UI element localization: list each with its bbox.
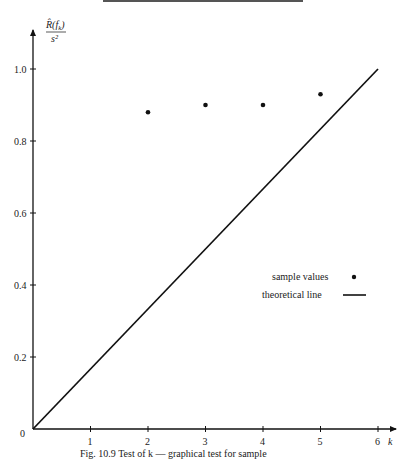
y-tick-label: 1.0 — [14, 64, 27, 75]
legend-sample-label: sample values — [272, 271, 328, 282]
sample-points — [146, 92, 323, 115]
sample-point — [203, 103, 208, 108]
y-label-denominator: s² — [51, 33, 59, 44]
x-tick-label: 5 — [318, 436, 323, 447]
x-axis-name: k — [388, 436, 393, 447]
legend-dot-icon — [352, 275, 356, 279]
x-tick-label: 6 — [375, 436, 380, 447]
theoretical-line — [33, 69, 378, 429]
x-tick-label: 4 — [260, 436, 265, 447]
sample-point — [261, 103, 266, 108]
sample-point — [146, 110, 151, 115]
figure-caption: Fig. 10.9 Test of k — graphical test for… — [80, 448, 267, 459]
y-tick-label: 0.6 — [14, 208, 27, 219]
y-tick-label: 0.8 — [14, 136, 27, 147]
origin-label: 0 — [20, 428, 25, 439]
y-tick-label: 0.4 — [14, 280, 27, 291]
sample-point — [318, 92, 323, 97]
axes — [33, 30, 396, 429]
legend: sample values theoretical line — [262, 271, 366, 300]
x-tick-label: 3 — [203, 436, 208, 447]
chart: 123456k0.20.40.60.81.00 R̂(fk)s² sample … — [0, 0, 409, 459]
x-tick-label: 1 — [88, 436, 93, 447]
theoretical-line-path — [33, 69, 378, 429]
x-tick-label: 2 — [145, 436, 150, 447]
y-tick-label: 0.2 — [14, 352, 27, 363]
y-axis-label: R̂(fk)s² — [45, 18, 66, 44]
y-label-numerator: R̂(fk) — [45, 18, 65, 32]
legend-line-label: theoretical line — [262, 289, 322, 300]
